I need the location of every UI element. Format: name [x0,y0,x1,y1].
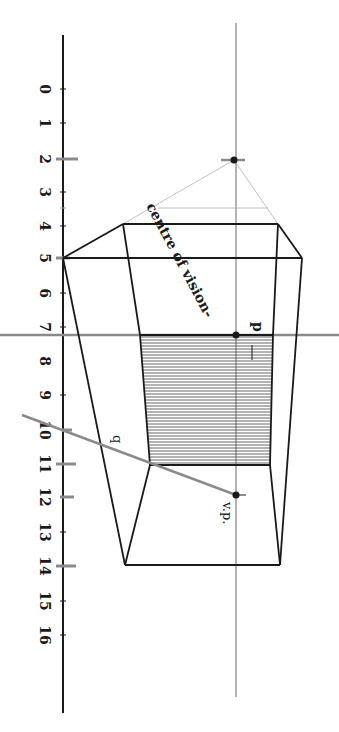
scale-label-14: 14 [37,556,53,576]
scale-label-2: 2 [37,154,53,164]
scale-label-6: 6 [37,288,53,298]
centre-of-vision-label: centre of vision- [143,200,217,320]
scale-label-12: 12 [37,487,53,506]
scale-label-15: 15 [37,591,53,610]
construction-lines [123,160,278,224]
scale-label-9: 9 [37,390,53,400]
scale-label-13: 13 [37,522,53,541]
scale-label-4: 4 [37,221,53,231]
scale-label-5: 5 [37,253,53,263]
scale-label-8: 8 [37,356,53,366]
perspective-diagram: 012345678910111213141516 centre of visio… [0,0,339,732]
scale-label-1: 1 [37,118,53,128]
scale-label-11: 11 [37,454,53,473]
scale-label-0: 0 [37,84,53,94]
top-point [231,157,238,164]
hatched-square [140,335,273,465]
scale-labels: 012345678910111213141516 [37,84,53,645]
scale-label-16: 16 [37,625,53,644]
vanishing-point [233,492,240,499]
vp-label: v.p. [220,501,235,524]
scale-label-7: 7 [37,322,53,332]
q-label: q [110,435,125,443]
point-p [233,332,240,339]
scale-label-3: 3 [37,187,53,197]
highlight-ticks [56,159,78,566]
p-label: p [250,322,266,332]
